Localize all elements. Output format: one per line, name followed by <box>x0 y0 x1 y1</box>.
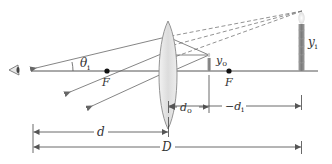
virtual-rays <box>166 11 302 60</box>
focal-point-right <box>226 68 231 73</box>
image-height-label: yi <box>307 35 318 51</box>
eye-icon <box>9 65 20 75</box>
magnifier-ray-diagram: θi F F yo yi do −di <box>0 0 332 164</box>
eye-lens-distance-label: d <box>97 125 105 139</box>
theta-label: θi <box>80 56 90 72</box>
object-height-label: yo <box>215 54 227 68</box>
image-distance-label: −di <box>225 100 244 114</box>
object-candle <box>208 53 211 71</box>
focal-right-label: F <box>224 76 233 89</box>
converging-lens <box>159 21 177 129</box>
focal-point-left <box>104 68 109 73</box>
object-distance-label: do <box>180 101 192 115</box>
image-candle <box>298 12 304 71</box>
eye-image-distance-label: D <box>161 140 172 154</box>
theta-angle-arc <box>72 62 73 71</box>
focal-left-label: F <box>101 76 110 89</box>
